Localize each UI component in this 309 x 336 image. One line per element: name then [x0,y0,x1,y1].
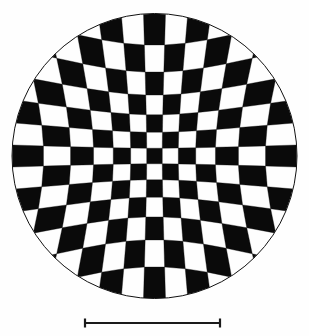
checker-cell [87,89,111,113]
checker-cell [92,129,113,147]
checker-cell [162,164,179,181]
checker-cell [92,164,113,182]
checker-cell [198,89,222,113]
checker-cell [71,147,94,166]
checker-cell [106,68,128,94]
checker-cell [66,107,92,129]
checker-cell [215,147,238,166]
checker-cell [196,164,217,182]
checker-cell [145,72,164,95]
checker-cell [217,183,243,205]
checker-cell [143,267,165,299]
checker-cell [178,148,195,165]
checker-cell [145,217,164,240]
checker-cell [111,180,130,199]
checker-cell [124,43,145,72]
checker-cell [181,68,203,94]
checker-cell [164,43,185,72]
checker-cell [42,125,71,146]
checker-cell [130,132,147,149]
checker-cell [147,148,163,164]
checker-cell [238,165,267,186]
checker-cell [163,197,181,218]
checker-cell [113,148,130,165]
checker-cell [164,240,185,269]
checker-cell [266,145,298,167]
checker-cell [87,200,111,224]
checker-cell [124,240,145,269]
figure-root [0,0,309,336]
checker-cell [66,183,92,205]
checker-cell [146,115,163,132]
checker-cell [111,112,130,131]
checker-cell [217,107,243,129]
checker-cell [42,165,71,186]
checker-cell [143,13,165,45]
checker-cell [181,218,203,244]
checker-cell [196,129,217,147]
checker-cell [128,94,146,115]
checker-cell [179,112,198,131]
checker-cell [130,164,147,181]
checker-cell [162,132,179,149]
checker-cell [238,125,267,146]
checker-cell [179,180,198,199]
checker-cell [146,180,163,197]
checker-cell [11,145,43,167]
checker-cell [106,218,128,244]
checker-cell [198,200,222,224]
figure-canvas [0,0,309,336]
checker-cell [128,197,146,218]
checker-cell [163,94,181,115]
